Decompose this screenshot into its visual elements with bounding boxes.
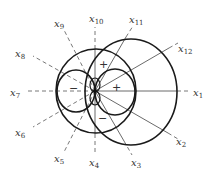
axis-x3-dashed xyxy=(124,141,132,155)
label-x9: x9 xyxy=(54,18,64,31)
origin-point xyxy=(93,89,97,93)
minus-sign-lower: − xyxy=(98,112,107,125)
axis-x12-dashed xyxy=(169,43,178,48)
label-x6: x6 xyxy=(15,127,26,140)
axis-labels: x1 x12 x11 x10 x9 x8 x7 x6 x5 x4 x3 x2 xyxy=(10,13,203,170)
plus-sign-upper: + xyxy=(99,58,108,71)
minus-sign-left: − xyxy=(69,82,78,95)
label-x7: x7 xyxy=(10,87,20,100)
label-x8: x8 xyxy=(15,48,25,61)
label-x2: x2 xyxy=(176,136,186,149)
label-x3: x3 xyxy=(131,157,141,170)
large-right-circle xyxy=(85,39,177,145)
label-x1: x1 xyxy=(193,87,203,100)
label-x10: x10 xyxy=(89,13,104,26)
polar-diagram: + + − − x1 x12 x11 x10 x9 x8 x7 x6 x5 x4… xyxy=(0,0,207,181)
label-x5: x5 xyxy=(54,153,64,166)
label-x11: x11 xyxy=(129,14,144,27)
label-x12: x12 xyxy=(178,43,193,56)
label-x4: x4 xyxy=(89,157,100,170)
axis-x11-dashed xyxy=(126,26,133,37)
plus-sign-right: + xyxy=(112,81,121,94)
